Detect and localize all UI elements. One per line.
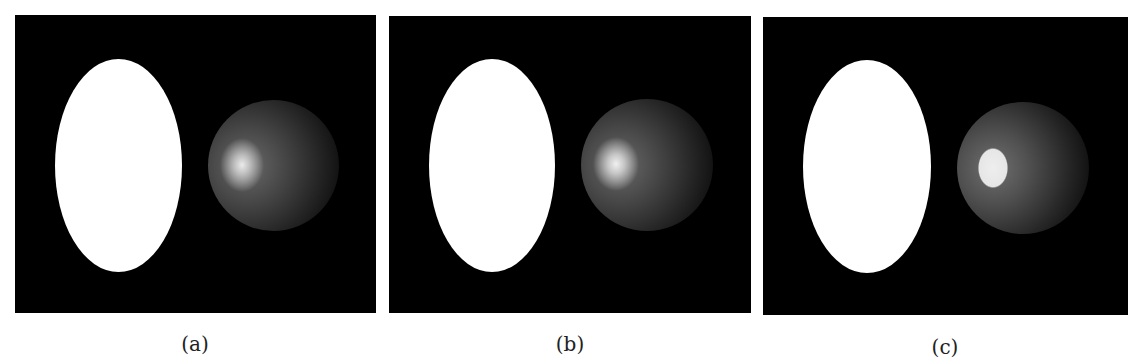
white-ellipse	[803, 60, 931, 273]
white-ellipse	[429, 59, 555, 272]
white-ellipse	[55, 59, 182, 272]
panel-b	[389, 16, 751, 313]
caption-a: (a)	[181, 332, 209, 356]
caption-c: (c)	[932, 335, 959, 359]
panel-c	[763, 17, 1128, 315]
shaded-sphere	[957, 102, 1089, 234]
shaded-sphere	[208, 100, 339, 231]
panel-a	[15, 15, 376, 313]
caption-b: (b)	[556, 332, 584, 356]
shaded-sphere	[581, 99, 713, 231]
